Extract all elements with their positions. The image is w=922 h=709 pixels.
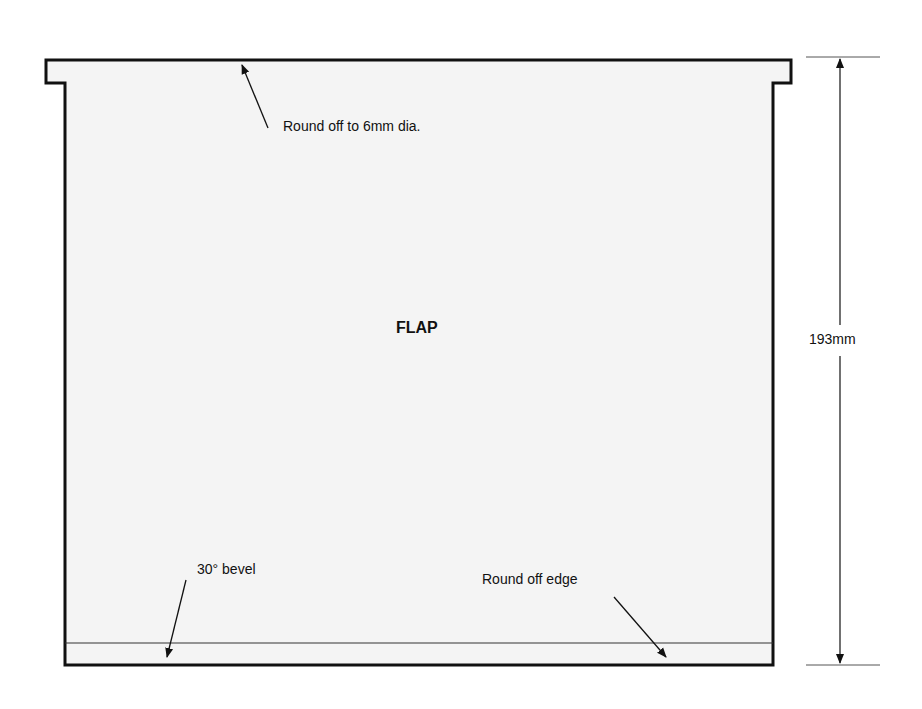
dimension-label: 193mm (809, 331, 856, 347)
bevel-annotation-label: 30° bevel (197, 561, 256, 577)
top-annotation-label: Round off to 6mm dia. (283, 118, 420, 134)
flap-outline (46, 60, 791, 665)
edge-annotation-label: Round off edge (482, 571, 578, 587)
flap-drawing (0, 0, 922, 709)
part-label: FLAP (396, 319, 438, 337)
